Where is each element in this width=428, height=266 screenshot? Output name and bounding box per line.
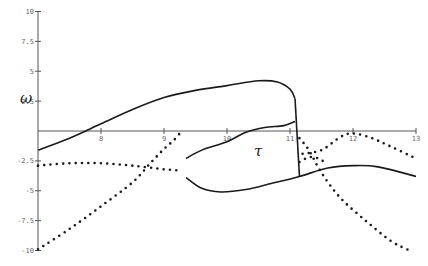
solid-lower-branch-curve xyxy=(186,165,416,191)
y-tick-label: -5 xyxy=(26,187,34,195)
x-tick-label: 13 xyxy=(412,135,420,143)
chart-plot: 107.552.5-2.5-5-7.5-108910111213 ω τ xyxy=(0,0,428,266)
dotted-right-peak-branch-dotted-curve xyxy=(303,133,416,158)
x-tick-label: 12 xyxy=(349,135,357,143)
axes: 107.552.5-2.5-5-7.5-108910111213 xyxy=(17,8,420,255)
dotted-flat-branch-dotted-curve xyxy=(38,163,180,170)
y-axis-label: ω xyxy=(20,89,32,107)
solid-upper-branch-curve xyxy=(38,81,295,151)
y-tick-label: -10 xyxy=(21,247,34,255)
dotted-right-falling-branch-dotted-curve xyxy=(299,138,409,250)
y-tick-label: 10 xyxy=(26,8,34,16)
x-axis-label: τ xyxy=(254,142,263,160)
y-tick-label: 5 xyxy=(30,68,34,76)
x-tick-label: 9 xyxy=(162,135,166,143)
x-tick-label: 11 xyxy=(286,135,294,143)
y-tick-label: -2.5 xyxy=(17,157,34,165)
solid-middle-branch-curve xyxy=(186,121,295,158)
series-group xyxy=(38,81,416,251)
y-tick-label: -7.5 xyxy=(17,217,34,225)
dotted-rising-branch-dotted-curve xyxy=(38,133,180,249)
y-tick-label: 7.5 xyxy=(21,38,34,46)
x-tick-label: 8 xyxy=(99,135,103,143)
